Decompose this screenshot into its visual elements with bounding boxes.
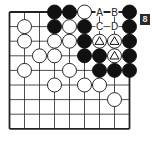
black-stone bbox=[123, 20, 137, 34]
black-stone bbox=[48, 5, 62, 19]
white-stone bbox=[63, 34, 77, 48]
black-stone bbox=[123, 5, 137, 19]
black-stone bbox=[123, 34, 137, 48]
black-stone bbox=[48, 20, 62, 34]
white-stone bbox=[18, 34, 32, 48]
black-stone bbox=[93, 49, 107, 63]
white-stone bbox=[33, 49, 47, 63]
point-label-a: A bbox=[96, 7, 103, 18]
black-stone bbox=[123, 49, 137, 63]
go-board-diagram: ABCD bbox=[0, 0, 152, 146]
white-stone bbox=[48, 49, 62, 63]
black-stone bbox=[78, 20, 92, 34]
point-label-c: C bbox=[96, 21, 103, 32]
white-stone bbox=[63, 63, 77, 77]
white-stone bbox=[108, 93, 122, 107]
black-stone bbox=[123, 63, 137, 77]
diagram-number-label: 8 bbox=[140, 14, 150, 25]
point-label-d: D bbox=[111, 21, 118, 32]
black-stone bbox=[93, 63, 107, 77]
white-stone bbox=[78, 5, 92, 19]
white-stone bbox=[18, 63, 32, 77]
black-stone bbox=[78, 34, 92, 48]
black-stone bbox=[78, 49, 92, 63]
point-label-b: B bbox=[111, 7, 118, 18]
white-stone bbox=[48, 34, 62, 48]
white-stone bbox=[18, 20, 32, 34]
white-stone bbox=[78, 78, 92, 92]
white-stone bbox=[48, 78, 62, 92]
white-stone bbox=[93, 78, 107, 92]
white-stone bbox=[63, 20, 77, 34]
black-stone bbox=[63, 5, 77, 19]
black-stone bbox=[108, 63, 122, 77]
